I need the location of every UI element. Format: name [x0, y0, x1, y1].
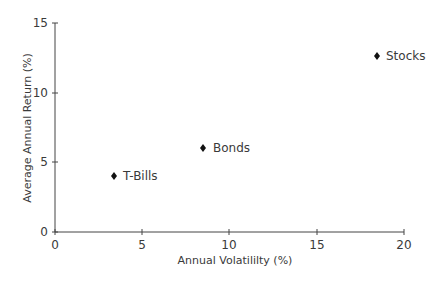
- y-axis: 15 10 5 0 Average Annual Return (%): [21, 16, 58, 239]
- x-tick-10: 10: [221, 238, 236, 252]
- y-tick-10: 10: [33, 86, 48, 100]
- y-tick-5: 5: [40, 155, 48, 169]
- point-bonds: Bonds: [200, 141, 250, 155]
- point-label: Stocks: [386, 49, 425, 63]
- y-tick-0: 0: [40, 225, 48, 239]
- diamond-marker-icon: [111, 172, 117, 180]
- x-tick-20: 20: [396, 238, 411, 252]
- point-t-bills: T-Bills: [111, 169, 158, 183]
- y-axis-label: Average Annual Return (%): [21, 53, 34, 202]
- scatter-chart: 15 10 5 0 Average Annual Return (%) 0 5 …: [0, 0, 436, 281]
- y-tick-15: 15: [33, 16, 48, 30]
- point-label: T-Bills: [122, 169, 158, 183]
- x-tick-0: 0: [51, 238, 59, 252]
- x-tick-5: 5: [138, 238, 146, 252]
- point-label: Bonds: [213, 141, 250, 155]
- diamond-marker-icon: [374, 52, 380, 60]
- point-stocks: Stocks: [374, 49, 425, 63]
- diamond-marker-icon: [200, 144, 206, 152]
- x-tick-15: 15: [309, 238, 324, 252]
- x-axis: 0 5 10 15 20 Annual Volatililty (%): [51, 229, 411, 267]
- x-axis-label: Annual Volatililty (%): [178, 254, 293, 267]
- data-points: T-Bills Bonds Stocks: [111, 49, 425, 183]
